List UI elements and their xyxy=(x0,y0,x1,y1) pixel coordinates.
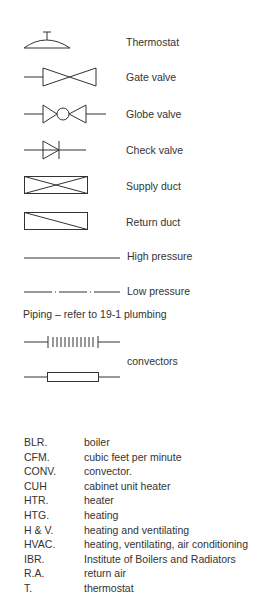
meaning: cabinet unit heater xyxy=(84,480,170,495)
return-duct-icon xyxy=(20,211,90,231)
legend-label-low-pressure: Low pressure xyxy=(127,285,190,297)
abbreviation-row: R.A.return air xyxy=(24,567,248,582)
convectors-label: convectors xyxy=(127,355,178,367)
abbreviation-row: HVAC.heating, ventilating, air condition… xyxy=(24,538,248,553)
abbreviation-row: H & V.heating and ventilating xyxy=(24,524,248,539)
abbreviation-row: IBR.Institute of Boilers and Radiators xyxy=(24,553,248,568)
high-pressure-line-icon xyxy=(20,256,124,260)
gate-valve-icon xyxy=(20,66,100,88)
abbreviation-list: BLR.boiler CFM.cubic feet per minute CON… xyxy=(24,436,248,597)
abbr: R.A. xyxy=(24,567,84,582)
legend-label-return-duct: Return duct xyxy=(126,216,180,228)
convector-cabinet-icon xyxy=(20,371,124,383)
abbreviation-row: CFM.cubic feet per minute xyxy=(24,451,248,466)
low-pressure-line-icon xyxy=(20,290,124,294)
legend-label-gate-valve: Gate valve xyxy=(126,71,176,83)
legend-label-globe-valve: Globe valve xyxy=(126,108,181,120)
abbreviation-row: HTG.heating xyxy=(24,509,248,524)
abbreviation-row: BLR.boiler xyxy=(24,436,248,451)
check-valve-icon xyxy=(20,139,90,161)
piping-note: Piping – refer to 19-1 plumbing xyxy=(23,308,167,320)
thermostat-icon xyxy=(20,30,80,50)
abbr: T. xyxy=(24,582,84,597)
meaning: convector. xyxy=(84,465,132,480)
meaning: heating and ventilating xyxy=(84,524,189,539)
abbr: CFM. xyxy=(24,451,84,466)
meaning: return air xyxy=(84,567,126,582)
convector-fins-icon xyxy=(20,335,124,349)
meaning: thermostat xyxy=(84,582,134,597)
abbreviation-row: T.thermostat xyxy=(24,582,248,597)
abbreviation-row: HTR.heater xyxy=(24,494,248,509)
abbr: H & V. xyxy=(24,524,84,539)
abbr: CONV. xyxy=(24,465,84,480)
meaning: heating, ventilating, air conditioning xyxy=(84,538,248,553)
meaning: heating xyxy=(84,509,118,524)
legend-label-thermostat: Thermostat xyxy=(126,36,179,48)
legend-label-supply-duct: Supply duct xyxy=(126,180,181,192)
abbreviation-row: CUHcabinet unit heater xyxy=(24,480,248,495)
supply-duct-icon xyxy=(20,175,90,195)
globe-valve-icon xyxy=(20,103,110,125)
abbreviation-row: CONV.convector. xyxy=(24,465,248,480)
abbr: IBR. xyxy=(24,553,84,568)
meaning: Institute of Boilers and Radiators xyxy=(84,553,236,568)
legend-label-high-pressure: High pressure xyxy=(127,250,192,262)
abbr: HTR. xyxy=(24,494,84,509)
abbr: CUH xyxy=(24,480,84,495)
meaning: heater xyxy=(84,494,114,509)
legend-label-check-valve: Check valve xyxy=(126,144,183,156)
meaning: boiler xyxy=(84,436,110,451)
abbr: BLR. xyxy=(24,436,84,451)
meaning: cubic feet per minute xyxy=(84,451,181,466)
abbr: HTG. xyxy=(24,509,84,524)
gate-valve-stub xyxy=(96,66,98,88)
abbr: HVAC. xyxy=(24,538,84,553)
